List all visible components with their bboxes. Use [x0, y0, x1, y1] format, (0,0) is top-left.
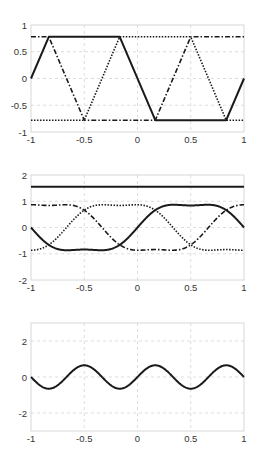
x-tick-label: -0.5 — [76, 282, 92, 293]
x-tick-label: 0 — [135, 282, 140, 293]
y-tick-label: 0 — [22, 372, 27, 383]
x-tick-label: 1 — [241, 134, 246, 145]
x-tick-label: -1 — [27, 134, 35, 145]
x-tick-label: -1 — [27, 433, 35, 444]
x-tick-label: -0.5 — [76, 134, 92, 145]
x-tick-label: 1 — [241, 282, 246, 293]
y-tick-label: 0 — [22, 222, 27, 233]
y-tick-label: -2 — [19, 275, 27, 286]
y-tick-label: 0.5 — [14, 46, 27, 57]
x-tick-label: 0.5 — [184, 282, 197, 293]
x-tick-label: -1 — [27, 282, 35, 293]
x-tick-label: 0 — [135, 134, 140, 145]
y-tick-label: 1 — [22, 196, 27, 207]
subplot-3: -1-0.500.51-202 — [19, 323, 247, 444]
y-tick-label: 2 — [22, 336, 27, 347]
subplot-2: -1-0.500.51-2-1012 — [19, 170, 247, 294]
y-tick-label: 1 — [22, 20, 27, 31]
x-tick-label: 0 — [135, 433, 140, 444]
y-tick-label: -0.5 — [11, 100, 27, 111]
y-tick-label: 2 — [22, 170, 27, 181]
x-tick-label: -0.5 — [76, 433, 92, 444]
y-tick-label: -1 — [19, 248, 27, 259]
x-tick-label: 0.5 — [184, 134, 197, 145]
y-tick-label: 0 — [22, 73, 27, 84]
x-tick-label: 1 — [241, 433, 246, 444]
y-tick-label: -1 — [19, 127, 27, 138]
y-tick-label: -2 — [19, 408, 27, 419]
x-tick-label: 0.5 — [184, 433, 197, 444]
figure: -1-0.500.51-1-0.500.51-1-0.500.51-2-1012… — [0, 0, 263, 466]
subplot-1: -1-0.500.51-1-0.500.51 — [11, 20, 247, 146]
